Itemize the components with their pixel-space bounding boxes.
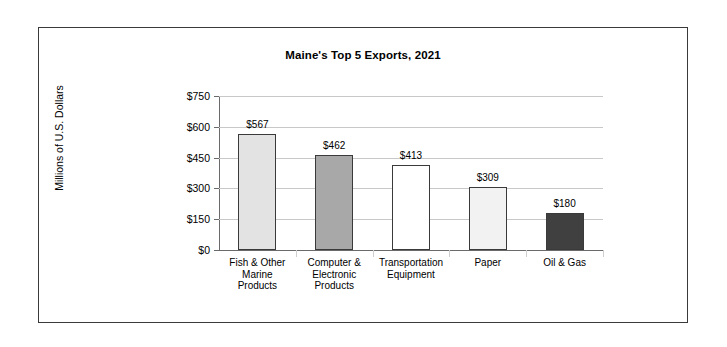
plot-area: $0$150$300$450$600$750$567Fish & OtherMa… xyxy=(219,96,603,250)
x-axis-separator-tick xyxy=(526,250,527,257)
gridline xyxy=(219,250,603,251)
bar-value-label: $462 xyxy=(323,140,345,151)
bar[interactable] xyxy=(392,165,430,250)
bar[interactable] xyxy=(238,134,276,250)
y-tick-label: $750 xyxy=(150,90,210,102)
x-axis-category-label-line: Fish & Other xyxy=(229,257,285,268)
x-axis-separator-tick xyxy=(449,250,450,257)
x-axis-category-label-line: Products xyxy=(314,280,353,291)
chart-title: Maine's Top 5 Exports, 2021 xyxy=(39,49,687,61)
y-tick-mark xyxy=(214,250,219,251)
bar-value-label: $309 xyxy=(477,172,499,183)
y-tick-label: $450 xyxy=(150,152,210,164)
bar-group: $180Oil & Gas xyxy=(526,96,603,250)
chart-figure: Maine's Top 5 Exports, 2021 Millions of … xyxy=(38,27,688,323)
y-tick-label: $0 xyxy=(150,244,210,256)
x-axis-category-label: Fish & OtherMarineProducts xyxy=(213,257,301,292)
bar[interactable] xyxy=(546,213,584,250)
bar[interactable] xyxy=(469,187,507,250)
bar[interactable] xyxy=(315,155,353,250)
x-axis-category-label-line: Computer & xyxy=(308,257,361,268)
y-tick-label: $300 xyxy=(150,182,210,194)
bar-group: $462Computer &ElectronicProducts xyxy=(296,96,373,250)
y-axis-title: Millions of U.S. Dollars xyxy=(53,58,65,218)
x-axis-separator-tick xyxy=(296,250,297,257)
bar-group: $567Fish & OtherMarineProducts xyxy=(219,96,296,250)
x-axis-category-label-line: Oil & Gas xyxy=(543,257,586,268)
bar-group: $413TransportationEquipment xyxy=(373,96,450,250)
x-axis-category-label-line: Electronic xyxy=(312,269,356,280)
x-axis-category-label-line: Transportation xyxy=(379,257,443,268)
bar-value-label: $413 xyxy=(400,150,422,161)
x-axis-category-label-line: Marine xyxy=(242,269,273,280)
x-axis-category-label-line: Equipment xyxy=(387,269,435,280)
bar-value-label: $180 xyxy=(553,198,575,209)
y-tick-label: $600 xyxy=(150,121,210,133)
bar-group: $309Paper xyxy=(449,96,526,250)
bar-value-label: $567 xyxy=(246,119,268,130)
x-axis-category-label: Computer &ElectronicProducts xyxy=(290,257,378,292)
x-axis-category-label: Oil & Gas xyxy=(521,257,609,269)
x-axis-category-label: Paper xyxy=(444,257,532,269)
x-axis-category-label: TransportationEquipment xyxy=(367,257,455,280)
y-tick-label: $150 xyxy=(150,213,210,225)
x-axis-category-label-line: Products xyxy=(238,280,277,291)
x-axis-category-label-line: Paper xyxy=(474,257,501,268)
x-axis-separator-tick xyxy=(603,250,604,257)
x-axis-separator-tick xyxy=(373,250,374,257)
